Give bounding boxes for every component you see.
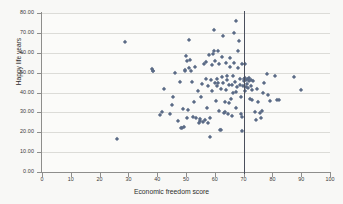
- y-tick-label: 0.00: [0, 169, 34, 174]
- reference-line-vertical: [244, 11, 245, 174]
- gridline-horizontal: [42, 73, 330, 74]
- y-axis-title: Happy life years: [15, 2, 22, 122]
- y-tick: [37, 53, 41, 54]
- x-tick-label: 70: [229, 177, 259, 182]
- y-tick: [37, 112, 41, 113]
- plot-area: [42, 13, 330, 172]
- y-tick: [37, 152, 41, 153]
- y-tick: [37, 93, 41, 94]
- x-tick-label: 10: [56, 177, 86, 182]
- x-tick-label: 90: [286, 177, 316, 182]
- y-tick: [37, 172, 41, 173]
- x-tick-label: 30: [113, 177, 143, 182]
- scatter-chart: 0.0010.0020.0030.0040.0050.0060.0070.008…: [0, 0, 343, 204]
- y-tick: [37, 33, 41, 34]
- gridline-horizontal: [42, 132, 330, 133]
- gridline-horizontal: [42, 93, 330, 94]
- y-tick: [37, 13, 41, 14]
- x-tick-label: 80: [257, 177, 287, 182]
- gridline-horizontal: [42, 112, 330, 113]
- x-tick-label: 60: [200, 177, 230, 182]
- x-tick-label: 0: [27, 177, 57, 182]
- x-tick-label: 50: [171, 177, 201, 182]
- gridline-horizontal: [42, 13, 330, 14]
- y-axis-line: [41, 12, 42, 173]
- y-tick-label: 10.00: [0, 149, 34, 154]
- x-tick-label: 20: [85, 177, 115, 182]
- y-tick: [37, 132, 41, 133]
- gridline-horizontal: [42, 33, 330, 34]
- x-tick-label: 100: [315, 177, 343, 182]
- gridline-horizontal: [42, 152, 330, 153]
- y-tick: [37, 73, 41, 74]
- y-tick-label: 20.00: [0, 129, 34, 134]
- x-tick-label: 40: [142, 177, 172, 182]
- x-axis-title: Economic freedom score: [0, 188, 343, 195]
